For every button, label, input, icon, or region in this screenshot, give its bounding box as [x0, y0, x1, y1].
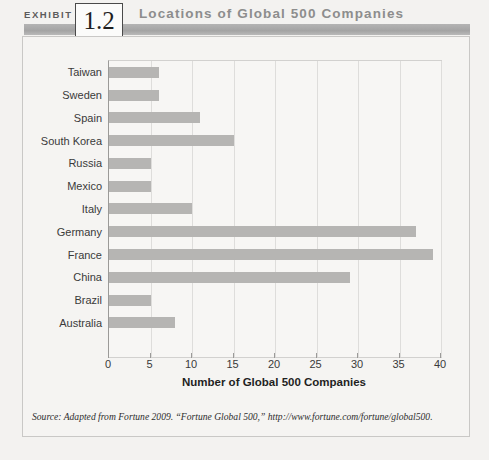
- x-tick-mark: [316, 353, 317, 358]
- category-label: South Korea: [41, 135, 102, 147]
- bar-row: Taiwan: [109, 61, 441, 84]
- bar: [109, 317, 175, 328]
- x-tick-label: 10: [185, 358, 197, 370]
- bar-row: Australia: [109, 311, 441, 334]
- category-label: China: [73, 271, 102, 283]
- exhibit-figure: EXHIBIT 1.2 Locations of Global 500 Comp…: [0, 0, 489, 460]
- bar: [109, 249, 433, 260]
- bar-row: China: [109, 266, 441, 289]
- category-label: Germany: [57, 226, 102, 238]
- plot-area: TaiwanSwedenSpainSouth KoreaRussiaMexico…: [108, 60, 442, 358]
- bar-row: France: [109, 243, 441, 266]
- x-tick-mark: [399, 353, 400, 358]
- bar-chart: TaiwanSwedenSpainSouth KoreaRussiaMexico…: [22, 36, 470, 437]
- source-note-text: Source: Adapted from Fortune 2009. “Fort…: [32, 411, 433, 422]
- category-label: Italy: [82, 203, 102, 215]
- source-note: Source: Adapted from Fortune 2009. “Fort…: [32, 411, 462, 422]
- bar-row: Sweden: [109, 84, 441, 107]
- category-label: Russia: [68, 157, 102, 169]
- x-tick-label: 0: [105, 358, 111, 370]
- bar: [109, 158, 151, 169]
- bar-rows: TaiwanSwedenSpainSouth KoreaRussiaMexico…: [109, 61, 441, 357]
- x-tick-label: 20: [268, 358, 280, 370]
- bar: [109, 272, 350, 283]
- x-tick-mark: [274, 353, 275, 358]
- x-tick-label: 5: [146, 358, 152, 370]
- bar-row: Brazil: [109, 289, 441, 312]
- category-label: Mexico: [67, 180, 102, 192]
- bar-row: Spain: [109, 107, 441, 130]
- x-axis-ticks: 0510152025303540: [108, 358, 440, 376]
- x-tick-label: 30: [351, 358, 363, 370]
- x-tick-mark: [233, 353, 234, 358]
- category-label: France: [68, 249, 102, 261]
- x-tick-label: 25: [309, 358, 321, 370]
- bar: [109, 90, 159, 101]
- bar: [109, 67, 159, 78]
- exhibit-number-box: 1.2: [75, 3, 123, 38]
- x-tick-mark: [357, 353, 358, 358]
- exhibit-label: EXHIBIT: [24, 9, 73, 20]
- category-label: Sweden: [62, 89, 102, 101]
- exhibit-title: Locations of Global 500 Companies: [139, 6, 404, 21]
- bar: [109, 135, 234, 146]
- bar-row: Germany: [109, 220, 441, 243]
- bar: [109, 181, 151, 192]
- exhibit-number: 1.2: [76, 4, 122, 38]
- bar: [109, 226, 416, 237]
- x-tick-mark: [191, 353, 192, 358]
- x-tick-label: 15: [226, 358, 238, 370]
- bar: [109, 112, 200, 123]
- bar-row: Russia: [109, 152, 441, 175]
- bar-row: South Korea: [109, 129, 441, 152]
- category-label: Spain: [74, 112, 102, 124]
- x-tick-mark: [150, 353, 151, 358]
- x-tick-mark: [440, 353, 441, 358]
- gridline: [441, 61, 442, 357]
- bar: [109, 203, 192, 214]
- x-tick-label: 35: [392, 358, 404, 370]
- category-label: Brazil: [74, 294, 102, 306]
- bar-row: Italy: [109, 198, 441, 221]
- x-tick-label: 40: [434, 358, 446, 370]
- x-axis-title: Number of Global 500 Companies: [108, 376, 440, 388]
- category-label: Taiwan: [68, 66, 102, 78]
- x-tick-mark: [108, 353, 109, 358]
- category-label: Australia: [59, 317, 102, 329]
- bar: [109, 295, 151, 306]
- bar-row: Mexico: [109, 175, 441, 198]
